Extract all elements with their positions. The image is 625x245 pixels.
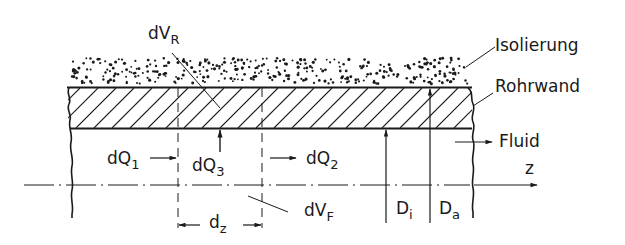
label-da: Da (439, 200, 460, 221)
dvf-leader (248, 196, 288, 212)
left-break-line (68, 88, 72, 218)
dq1-main: dQ (107, 148, 131, 168)
dq3-sub: 3 (216, 164, 224, 179)
dz-sub: z (220, 221, 227, 236)
dvf-sub: F (326, 209, 333, 224)
label-dvf: dVF (304, 202, 334, 223)
rohrwand-leader (473, 93, 493, 106)
right-break-line (468, 88, 474, 218)
dvf-main: dV (304, 200, 326, 220)
dq2-main: dQ (306, 148, 330, 168)
dz-main: d (209, 212, 220, 232)
dq3-main: dQ (192, 155, 216, 175)
da-main: D (439, 198, 452, 218)
dvr-sub: R (170, 32, 179, 47)
isolierung-leader (466, 47, 495, 67)
label-di: Di (396, 200, 413, 221)
dvr-leader (172, 53, 220, 108)
label-dq1: dQ1 (107, 150, 139, 171)
label-dz: dz (209, 214, 227, 235)
dq1-sub: 1 (131, 157, 139, 172)
dq2-sub: 2 (330, 157, 338, 172)
insulation-layer (71, 57, 468, 86)
label-isolierung: Isolierung (495, 37, 579, 54)
label-dq3: dQ3 (192, 157, 224, 178)
pipe-wall (40, 88, 494, 129)
label-dq2: dQ2 (306, 150, 338, 171)
di-main: D (396, 198, 409, 218)
label-rohrwand: Rohrwand (495, 78, 580, 95)
label-fluid: Fluid (499, 133, 540, 150)
dvr-main: dV (148, 23, 170, 43)
da-sub: a (452, 207, 460, 222)
di-sub: i (409, 207, 413, 222)
label-dvr: dVR (148, 25, 179, 46)
label-z: z (525, 160, 534, 177)
